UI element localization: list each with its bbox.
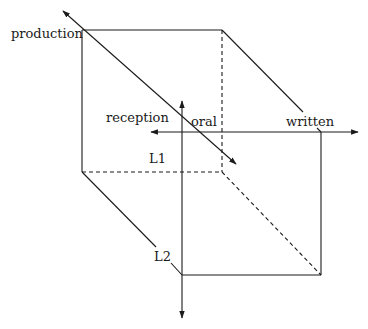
label-written: written xyxy=(286,115,334,128)
label-production: production xyxy=(11,27,83,40)
axis-production-reception xyxy=(63,11,236,164)
label-reception: reception xyxy=(106,111,169,124)
cube-edge-left-diagonal-end xyxy=(171,263,182,275)
cube-edge-hidden-diagonal xyxy=(222,172,321,275)
cube-diagram xyxy=(0,0,368,329)
cube-edge-top-diagonal xyxy=(222,30,303,112)
label-l2: L2 xyxy=(154,250,171,263)
label-l1: L1 xyxy=(149,152,166,165)
cube-edge-left-diagonal xyxy=(82,172,156,247)
label-oral: oral xyxy=(191,115,217,128)
